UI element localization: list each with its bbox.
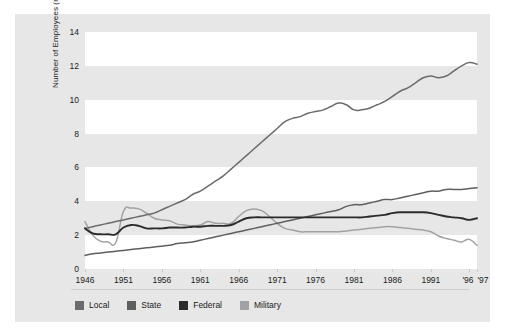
x-tick-label: 1976 (306, 275, 325, 285)
x-tick-mark (316, 269, 317, 272)
y-axis-title: Number of Employees (millions) (51, 0, 60, 88)
x-tick-mark (277, 269, 278, 272)
legend-separator (71, 289, 469, 290)
x-tick-mark (431, 269, 432, 272)
x-tick-label: 1961 (191, 275, 210, 285)
legend-item-military[interactable]: Military (240, 300, 281, 310)
x-tick-label: 1991 (421, 275, 440, 285)
x-tick-label: 1986 (383, 275, 402, 285)
y-tick-label: 12 (70, 61, 79, 71)
legend-swatch-federal (179, 301, 188, 310)
legend-label-military: Military (254, 300, 281, 310)
x-tick-mark (239, 269, 240, 272)
legend-item-state[interactable]: State (127, 300, 161, 310)
y-tick-label: 4 (74, 196, 79, 206)
x-tick-mark (354, 269, 355, 272)
x-tick-mark (469, 269, 470, 272)
x-tick-mark (162, 269, 163, 272)
legend-label-local: Local (89, 300, 109, 310)
y-tick-label: 0 (74, 264, 79, 274)
x-tick-label: 1951 (114, 275, 133, 285)
legend-swatch-military (240, 301, 249, 310)
y-tick-label: 2 (74, 230, 79, 240)
legend-swatch-state (127, 301, 136, 310)
legend-label-state: State (141, 300, 161, 310)
x-tick-mark (123, 269, 124, 272)
legend-item-local[interactable]: Local (75, 300, 109, 310)
x-tick-label: '96 (462, 275, 473, 285)
y-tick-label: 6 (74, 162, 79, 172)
x-tick-label: 1966 (229, 275, 248, 285)
x-tick-label: 1981 (345, 275, 364, 285)
plot-area: Number of Employees (millions) 14 12 10 … (85, 32, 477, 269)
chart-legend: Local State Federal Military (75, 300, 281, 310)
legend-label-federal: Federal (193, 300, 222, 310)
series-line-state (85, 188, 477, 256)
y-tick-label: 14 (70, 27, 79, 37)
x-tick-label: 1946 (76, 275, 95, 285)
x-tick-label: 1956 (152, 275, 171, 285)
x-tick-mark (85, 269, 86, 272)
series-lines (85, 32, 477, 269)
x-tick-mark (392, 269, 393, 272)
legend-swatch-local (75, 301, 84, 310)
x-tick-mark (477, 269, 478, 272)
y-tick-label: 10 (70, 95, 79, 105)
x-tick-label: '97 (477, 275, 488, 285)
x-tick-mark (200, 269, 201, 272)
chart-figure: Number of Employees (millions) 14 12 10 … (15, 14, 490, 322)
y-tick-label: 8 (74, 129, 79, 139)
x-tick-label: 1971 (268, 275, 287, 285)
series-line-local (85, 62, 477, 228)
legend-item-federal[interactable]: Federal (179, 300, 222, 310)
